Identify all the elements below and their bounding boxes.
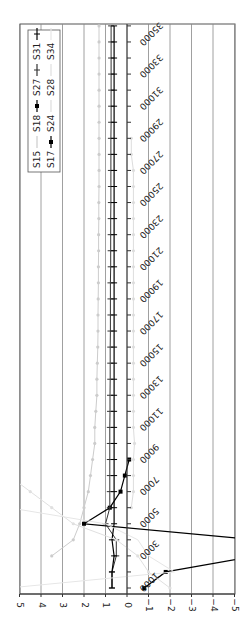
marker-square	[119, 490, 123, 494]
marker-dot	[91, 458, 94, 461]
marker-dot	[132, 217, 135, 220]
legend-label-S18: S18	[32, 115, 42, 132]
legend: S15S18S27S31S17S24S28S34	[28, 28, 60, 172]
marker-dot	[132, 233, 135, 236]
legend-label-S28: S28	[46, 79, 56, 96]
marker-dot	[132, 426, 135, 429]
legend-label-S27: S27	[32, 79, 42, 96]
marker-dot	[132, 185, 135, 188]
marker-dot	[96, 313, 99, 316]
marker-dot	[97, 24, 100, 27]
marker-dot	[97, 137, 100, 140]
y-tick-label: 5	[15, 602, 25, 608]
marker-dot	[132, 458, 135, 461]
marker-square	[123, 474, 127, 478]
y-tick-label: 4	[37, 602, 47, 608]
y-tick-label: 2	[80, 602, 90, 608]
marker-dot	[95, 394, 98, 397]
y-tick-label: 3	[58, 602, 68, 608]
y-tick-label: −4	[209, 598, 219, 612]
marker-square	[82, 522, 86, 526]
marker-dot	[97, 169, 100, 172]
legend-marker	[49, 140, 53, 144]
marker-dot	[95, 378, 98, 381]
y-tick-label: 0	[123, 602, 133, 608]
marker-dot	[93, 442, 96, 445]
marker-dot	[93, 426, 96, 429]
legend-label-S31: S31	[32, 43, 42, 60]
marker-dot	[97, 249, 100, 252]
marker-dot	[133, 442, 136, 445]
marker-dot	[50, 506, 53, 509]
marker-dot	[89, 474, 92, 477]
marker-dot	[115, 538, 118, 541]
legend-label-S24: S24	[46, 115, 56, 132]
marker-dot	[97, 56, 100, 59]
marker-dot	[132, 313, 135, 316]
y-tick-label: 1	[101, 602, 111, 608]
legend-label-S34: S34	[46, 43, 56, 60]
marker-dot	[72, 522, 75, 525]
marker-dot	[97, 217, 100, 220]
marker-dot	[97, 89, 100, 92]
marker-dot	[96, 329, 99, 332]
marker-dot	[132, 249, 135, 252]
marker-dot	[29, 490, 32, 493]
marker-dot	[94, 410, 97, 413]
marker-dot	[97, 281, 100, 284]
y-tick-label: −2	[166, 598, 176, 611]
marker-dot	[82, 506, 85, 509]
marker-dot	[72, 538, 75, 541]
marker-dot	[132, 265, 135, 268]
y-tick-label: −5	[230, 598, 240, 611]
marker-dot	[132, 362, 135, 365]
marker-dot	[132, 169, 135, 172]
marker-dot	[132, 378, 135, 381]
marker-dot	[132, 474, 135, 477]
marker-dot	[97, 40, 100, 43]
marker-dot	[168, 586, 171, 589]
marker-dot	[97, 105, 100, 108]
rotated-line-chart: 543210−1−2−3−4−5100030005000700090001100…	[0, 0, 251, 634]
marker-dot	[97, 121, 100, 124]
marker-dot	[132, 490, 135, 493]
legend-marker	[35, 104, 39, 108]
marker-dot	[97, 233, 100, 236]
marker-dot	[96, 346, 99, 349]
marker-dot	[132, 410, 135, 413]
marker-dot	[97, 265, 100, 268]
marker-dot	[132, 346, 135, 349]
marker-dot	[132, 297, 135, 300]
y-tick-label: −1	[144, 598, 154, 611]
y-tick-label: −3	[187, 598, 197, 611]
marker-dot	[97, 297, 100, 300]
marker-dot	[132, 201, 135, 204]
marker-dot	[97, 72, 100, 75]
marker-dot	[97, 185, 100, 188]
marker-dot	[97, 201, 100, 204]
marker-dot	[97, 153, 100, 156]
marker-dot	[132, 394, 135, 397]
marker-dot	[50, 554, 53, 557]
marker-dot	[147, 570, 150, 573]
marker-dot	[78, 522, 81, 525]
marker-dot	[132, 329, 135, 332]
marker-dot	[96, 362, 99, 365]
legend-label-S17: S17	[46, 151, 56, 168]
legend-label-S15: S15	[32, 151, 42, 168]
marker-dot	[132, 281, 135, 284]
marker-dot	[87, 490, 90, 493]
